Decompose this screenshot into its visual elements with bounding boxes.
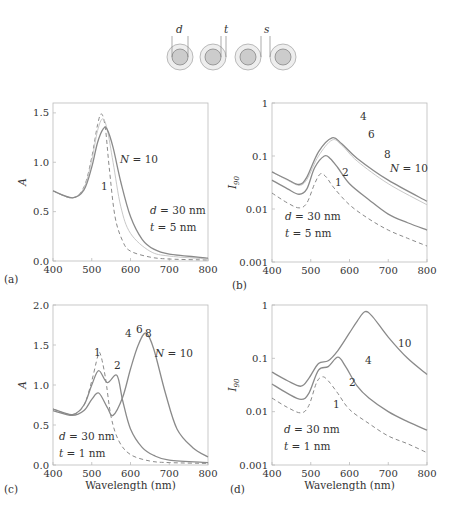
y-tick-label: 0.001 xyxy=(239,257,268,268)
annotation: 6 xyxy=(136,323,143,335)
circle-4 xyxy=(270,44,296,70)
figure: d t s 4005006007008000.00.51.01.5AN = 10… xyxy=(0,0,459,516)
annotation: d = 30 nm xyxy=(59,430,115,442)
annotation: t = 1 nm xyxy=(59,447,105,459)
label-t: t xyxy=(224,23,229,35)
annotation: 4 xyxy=(125,327,132,339)
circle-1 xyxy=(167,44,193,70)
y-axis-label: A xyxy=(16,381,28,390)
y-tick-label: 1.0 xyxy=(33,157,49,168)
annotation: 4 xyxy=(365,354,372,366)
y-tick-label: 1.5 xyxy=(33,340,49,351)
panel-label-a: (a) xyxy=(4,273,18,285)
y-tick-label: 1 xyxy=(262,98,268,109)
x-tick-label: 800 xyxy=(417,265,436,276)
y-tick-label: 0.5 xyxy=(33,420,49,431)
annotation: N = 10 xyxy=(389,162,428,174)
x-tick-label: 600 xyxy=(340,265,359,276)
annotation: N = 10 xyxy=(119,153,158,165)
annotation: 1 xyxy=(335,176,342,188)
y-tick-label: 1.5 xyxy=(33,107,49,118)
annotation: 10 xyxy=(398,337,411,349)
annotation: N = 10 xyxy=(154,347,193,359)
annotation: 2 xyxy=(342,166,349,178)
annotation: t = 1 nm xyxy=(284,440,330,452)
annotation: 6 xyxy=(368,128,375,140)
x-tick-label: 600 xyxy=(121,264,140,275)
x-tick-label: 800 xyxy=(198,264,217,275)
y-axis-label: A xyxy=(16,178,28,187)
series-line xyxy=(53,127,208,258)
x-tick-label: 800 xyxy=(417,468,436,479)
y-tick-label: 1.0 xyxy=(33,380,49,391)
panel-label-b: (b) xyxy=(232,279,247,291)
annotation: 1 xyxy=(94,346,101,358)
annotation: 1 xyxy=(333,398,340,410)
y-tick-label: 0.1 xyxy=(252,151,268,162)
chart-panel-a: 4005006007008000.00.51.01.5AN = 101d = 3… xyxy=(16,103,218,275)
x-tick-label: 600 xyxy=(340,468,359,479)
x-tick-label: 500 xyxy=(301,265,320,276)
annotation: d = 30 nm xyxy=(150,204,206,216)
y-axis-label: I90 xyxy=(226,175,241,190)
x-tick-label: 600 xyxy=(121,468,140,479)
label-d: d xyxy=(176,23,183,35)
annotation: 2 xyxy=(349,376,356,388)
panel-label-c: (c) xyxy=(4,483,18,495)
y-axis-label: I90 xyxy=(226,378,241,393)
chart-panel-c: 4005006007008000.00.51.01.52.0AWavelengt… xyxy=(16,300,218,492)
annotation: 1 xyxy=(101,180,108,192)
y-tick-label: 0.5 xyxy=(33,206,49,217)
chart-panel-d: 4005006007008000.0010.010.11I90Wavelengt… xyxy=(226,300,437,492)
x-tick-label: 500 xyxy=(301,468,320,479)
x-tick-label: 700 xyxy=(379,468,398,479)
x-axis-label: Wavelength (nm) xyxy=(85,479,176,491)
panel-label-d: (d) xyxy=(230,483,245,495)
x-tick-label: 700 xyxy=(160,264,179,275)
x-tick-label: 800 xyxy=(198,468,217,479)
annotation: 2 xyxy=(114,359,121,371)
annotation: d = 30 nm xyxy=(285,210,341,222)
series-line xyxy=(272,357,427,430)
y-tick-label: 2.0 xyxy=(33,300,49,311)
y-tick-label: 0.0 xyxy=(33,256,49,267)
y-tick-label: 0.001 xyxy=(239,460,268,471)
x-tick-label: 700 xyxy=(160,468,179,479)
annotation: t = 5 nm xyxy=(285,227,331,239)
schematic: d t s xyxy=(167,23,296,70)
chart-panel-b: 4005006007008000.0010.010.11I90468N = 10… xyxy=(226,98,437,277)
plot-frame xyxy=(53,103,208,261)
label-s: s xyxy=(264,23,270,35)
annotation: 8 xyxy=(384,148,391,160)
x-axis-label: Wavelength (nm) xyxy=(304,479,395,491)
y-tick-label: 0.1 xyxy=(252,353,268,364)
annotation: 4 xyxy=(360,110,367,122)
series-line xyxy=(53,114,208,260)
annotation: t = 5 nm xyxy=(150,221,196,233)
y-tick-label: 0.01 xyxy=(246,204,268,215)
annotation: 8 xyxy=(145,327,152,339)
y-tick-label: 0.0 xyxy=(33,460,49,471)
x-tick-label: 500 xyxy=(82,468,101,479)
series-line xyxy=(53,119,208,259)
annotation: d = 30 nm xyxy=(284,423,340,435)
x-tick-label: 700 xyxy=(379,265,398,276)
x-tick-label: 500 xyxy=(82,264,101,275)
circle-3 xyxy=(235,44,261,70)
y-tick-label: 1 xyxy=(262,300,268,311)
circle-2 xyxy=(200,44,226,70)
y-tick-label: 0.01 xyxy=(246,406,268,417)
